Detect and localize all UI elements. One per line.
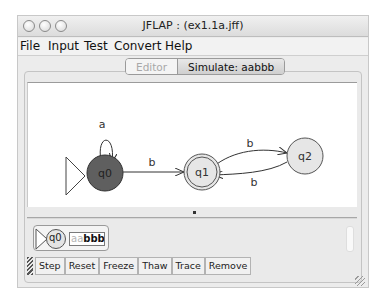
split-pane-dot [193, 211, 196, 214]
thaw-button[interactable]: Thaw [138, 257, 171, 275]
title-bar: JFLAP : (ex1.1a.jff) [18, 16, 368, 37]
svg-text:b: b [247, 137, 254, 150]
freeze-button[interactable]: Freeze [99, 257, 138, 275]
svg-text:b: b [149, 156, 156, 169]
menu-test[interactable]: Test [84, 39, 108, 53]
reset-button[interactable]: Reset [65, 257, 100, 275]
remove-button[interactable]: Remove [205, 257, 252, 275]
tab-simulate[interactable]: Simulate: aabbb [177, 59, 284, 74]
config-state-label: q0 [49, 232, 62, 243]
menu-convert[interactable]: Convert [114, 39, 161, 53]
automaton-diagram: q0 q1 q2 a b b b [28, 83, 358, 208]
window-title: JFLAP : (ex1.1a.jff) [18, 19, 368, 32]
menu-input[interactable]: Input [48, 39, 79, 53]
menu-help[interactable]: Help [165, 39, 192, 53]
svg-text:q0: q0 [98, 167, 112, 180]
trace-button[interactable]: Trace [172, 257, 205, 275]
tab-bar: Editor Simulate: aabbb [125, 58, 285, 75]
automaton-canvas[interactable]: q0 q1 q2 a b b b [27, 82, 357, 207]
svg-text:a: a [99, 118, 106, 131]
step-button[interactable]: Step [35, 257, 65, 275]
svg-text:q1: q1 [195, 166, 209, 179]
tape-remaining: bbb [83, 233, 104, 244]
svg-text:b: b [251, 176, 258, 189]
simulator-toolbar: Step Reset Freeze Thaw Trace Remove [27, 257, 251, 275]
svg-text:q2: q2 [298, 150, 312, 163]
toolbar-grip-icon[interactable] [27, 257, 33, 275]
tab-editor[interactable]: Editor [126, 59, 177, 74]
config-scrollbar[interactable] [346, 226, 354, 252]
menu-file[interactable]: File [20, 39, 40, 53]
config-tape: aabbb [69, 232, 105, 246]
resize-grip-icon[interactable] [355, 276, 365, 286]
tape-consumed: aa [71, 233, 83, 244]
initial-state-arrow-icon [66, 157, 85, 195]
split-pane-divider[interactable] [27, 217, 357, 219]
configuration-card[interactable]: q0 aabbb [33, 225, 109, 251]
